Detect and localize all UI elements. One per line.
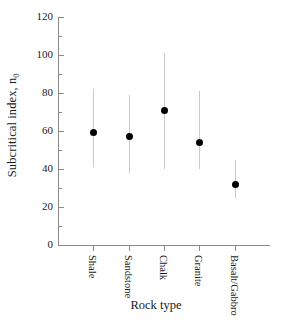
y-axis-tick-minor xyxy=(59,188,62,189)
y-axis-tick-minor xyxy=(59,226,62,227)
y-axis-tick-major xyxy=(59,55,64,56)
x-axis-tick-label: Sandstone xyxy=(122,255,133,298)
y-axis-tick-major xyxy=(59,17,64,18)
y-axis-tick-minor xyxy=(59,112,62,113)
x-axis-tick xyxy=(129,246,130,251)
y-axis-tick-minor xyxy=(59,74,62,75)
y-axis-tick-label: 20 xyxy=(27,201,53,212)
y-axis-tick-label: 40 xyxy=(27,163,53,174)
y-axis-tick-major xyxy=(59,207,64,208)
error-bar xyxy=(235,160,236,198)
y-axis-label-text: Subcritical index, n xyxy=(5,77,19,177)
data-point xyxy=(161,107,168,114)
y-axis-tick-major xyxy=(59,169,64,170)
data-point xyxy=(90,129,97,136)
y-axis-tick-label: 120 xyxy=(27,11,53,22)
x-axis-tick xyxy=(199,246,200,251)
data-point xyxy=(232,181,239,188)
data-point xyxy=(126,133,133,140)
x-axis-tick-label: Shale xyxy=(87,255,98,278)
y-axis-tick-minor xyxy=(59,36,62,37)
x-axis-tick xyxy=(93,246,94,251)
data-point xyxy=(196,139,203,146)
x-axis-tick-label: Granite xyxy=(193,255,204,287)
chart-figure: Subcritical index, n0 020406080100120 Sh… xyxy=(0,0,288,323)
y-axis-tick-minor xyxy=(59,150,62,151)
y-axis-tick-major xyxy=(59,93,64,94)
y-axis-label: Subcritical index, n0 xyxy=(0,0,26,250)
y-axis-tick-label: 80 xyxy=(27,87,53,98)
error-bar xyxy=(93,89,94,167)
y-axis-tick-major xyxy=(59,245,64,246)
error-bar xyxy=(199,91,200,169)
x-axis-tick xyxy=(235,246,236,251)
x-axis-tick xyxy=(164,246,165,251)
y-axis-tick-label: 100 xyxy=(27,49,53,60)
y-axis-label-subscript: 0 xyxy=(11,73,21,77)
plot-area: 020406080100120 ShaleSandstoneChalkGrani… xyxy=(58,17,270,245)
x-axis-label: Rock type xyxy=(30,298,282,313)
x-axis-tick-label: Chalk xyxy=(158,255,169,280)
y-axis-tick-label: 60 xyxy=(27,125,53,136)
y-axis-tick-label: 0 xyxy=(27,239,53,250)
y-axis-tick-major xyxy=(59,131,64,132)
